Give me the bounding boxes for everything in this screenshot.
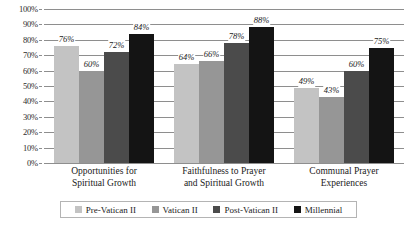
bar[interactable]: 49% [294,88,319,163]
category-label-line: Faithfulness to Prayer [164,166,284,178]
legend-item[interactable]: Pre-Vatican II [75,205,136,215]
y-axis-tick-label: 70% [23,50,38,60]
category-label: Opportunities forSpiritual Growth [44,166,164,189]
legend-label: Vatican II [163,205,198,215]
bar[interactable]: 84% [129,34,154,163]
legend-item[interactable]: Post-Vatican II [213,205,278,215]
bar-slot: 76% [54,9,79,163]
category-axis-labels: Opportunities forSpiritual GrowthFaithfu… [44,166,404,198]
bar-slot: 78% [224,9,249,163]
bar[interactable]: 75% [369,48,394,164]
bar[interactable]: 78% [224,43,249,163]
legend-label: Pre-Vatican II [86,205,136,215]
y-axis-tick-label: 80% [23,35,38,45]
bar-slot: 75% [369,9,394,163]
y-axis-tick-label: 10% [23,143,38,153]
y-axis-tick-label: 40% [23,96,38,106]
category-label-line: Opportunities for [44,166,164,178]
legend-swatch-icon [294,206,301,213]
category-label-line: and Spiritual Growth [164,178,284,190]
bar-chart: 100%90%80%70%60%50%40%30%20%10%0% 76%60%… [0,0,417,232]
bar-value-label: 88% [253,15,271,26]
y-axis-tick-label: 30% [23,112,38,122]
legend-swatch-icon [152,206,159,213]
y-axis-tick-label: 20% [23,127,38,137]
bar[interactable]: 43% [319,97,344,163]
bar[interactable]: 64% [174,64,199,163]
legend-label: Post-Vatican II [224,205,278,215]
bar-slot: 66% [199,9,224,163]
bar-slot: 60% [79,9,104,163]
bar[interactable]: 60% [79,71,104,163]
y-axis-tick-label: 50% [23,81,38,91]
y-axis: 100%90%80%70%60%50%40%30%20%10%0% [0,9,40,163]
bar-slot: 72% [104,9,129,163]
legend-item[interactable]: Vatican II [152,205,198,215]
bar-slot: 49% [294,9,319,163]
legend-swatch-icon [75,206,82,213]
axis-baseline [44,163,404,164]
bar-slot: 43% [319,9,344,163]
bar-slot: 60% [344,9,369,163]
plot-area: 76%60%72%84%64%66%78%88%49%43%60%75% [44,9,404,163]
legend-label: Millennial [305,205,343,215]
bar-value-label: 76% [58,34,76,45]
bar[interactable]: 72% [104,52,129,163]
bar[interactable]: 76% [54,46,79,163]
bar-group: 49%43%60%75% [284,9,404,163]
y-axis-tick-label: 100% [19,4,38,14]
bar-value-label: 60% [348,59,366,70]
category-label-line: Experiences [284,178,404,190]
bar-slot: 84% [129,9,154,163]
y-axis-tick-label: 0% [27,158,38,168]
bar[interactable]: 60% [344,71,369,163]
bar[interactable]: 88% [249,27,274,163]
category-label-line: Communal Prayer [284,166,404,178]
bar-value-label: 64% [178,52,196,63]
category-label-line: Spiritual Growth [44,178,164,190]
bar-value-label: 49% [298,76,316,87]
y-axis-tick-label: 90% [23,19,38,29]
bar-slot: 64% [174,9,199,163]
bar-value-label: 84% [133,22,151,33]
bar-value-label: 66% [203,49,221,60]
bar-value-label: 43% [323,85,341,96]
y-axis-tick-label: 60% [23,66,38,76]
bar-slot: 88% [249,9,274,163]
category-label: Faithfulness to Prayerand Spiritual Grow… [164,166,284,189]
chart-legend: Pre-Vatican IIVatican IIPost-Vatican IIM… [60,201,357,218]
bar-value-label: 78% [228,31,246,42]
bar-value-label: 75% [373,36,391,47]
bar-value-label: 60% [83,59,101,70]
category-label: Communal PrayerExperiences [284,166,404,189]
bar-value-label: 72% [108,40,126,51]
legend-item[interactable]: Millennial [294,205,343,215]
legend-swatch-icon [213,206,220,213]
bar-group: 64%66%78%88% [164,9,284,163]
bar[interactable]: 66% [199,61,224,163]
bar-group: 76%60%72%84% [44,9,164,163]
